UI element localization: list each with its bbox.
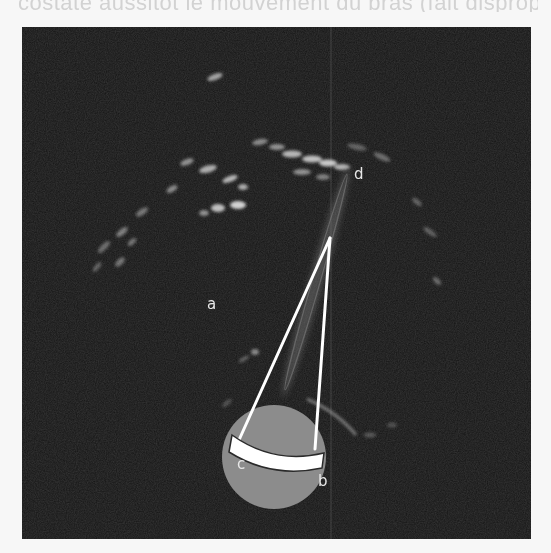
cut-off-caption-text: costate aussitôt le mouvement du bras (f… [18, 0, 538, 12]
label-b: b [318, 474, 328, 489]
label-d: d [354, 167, 364, 182]
label-c: c [237, 457, 245, 472]
label-a: a [207, 297, 216, 312]
ultrasound-image-panel: a b c d [22, 27, 531, 539]
ultrasound-figure [22, 27, 531, 539]
